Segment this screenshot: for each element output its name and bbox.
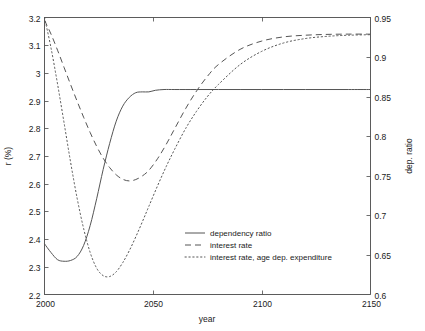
y-tick-label-right: 0.75	[375, 172, 392, 182]
y-tick-label-left: 2.5	[29, 207, 41, 217]
y-tick-label-left: 2.8	[29, 124, 41, 134]
x-tick-label: 2100	[253, 299, 272, 309]
y-tick-label-left: 2.9	[29, 97, 41, 107]
legend-label-1: interest rate	[210, 241, 253, 250]
y-tick-label-right: 0.9	[375, 53, 387, 63]
legend-label-0: dependency ratio	[210, 229, 272, 238]
y-tick-label-right: 0.8	[375, 132, 387, 142]
y-tick-label-left: 3	[36, 69, 41, 79]
y-tick-label-left: 2.3	[29, 263, 41, 273]
y-tick-label-right: 0.7	[375, 211, 387, 221]
y-tick-label-left: 3.1	[29, 41, 41, 51]
x-tick-label: 2050	[144, 299, 163, 309]
y-tick-label-left: 2.4	[29, 235, 41, 245]
y-tick-label-left: 3.2	[29, 14, 41, 24]
chart-background	[0, 0, 425, 331]
y-axis-title-right: dep. ratio	[404, 138, 414, 174]
y-tick-label-left: 2.6	[29, 180, 41, 190]
y-axis-title-left: r (%)	[3, 147, 13, 166]
y-tick-label-right: 0.95	[375, 14, 392, 24]
y-tick-label-right: 0.85	[375, 93, 392, 103]
y-tick-label-left: 2.7	[29, 152, 41, 162]
line-chart: 2000205021002150 2.22.32.42.52.62.72.82.…	[0, 0, 425, 331]
chart-figure: 2000205021002150 2.22.32.42.52.62.72.82.…	[0, 0, 425, 331]
y-tick-label-left: 2.2	[29, 291, 41, 301]
x-axis-title: year	[199, 314, 216, 324]
legend-label-2: interest rate, age dep. expenditure	[210, 253, 332, 262]
y-tick-label-right: 0.6	[375, 291, 387, 301]
y-tick-label-right: 0.65	[375, 251, 392, 261]
